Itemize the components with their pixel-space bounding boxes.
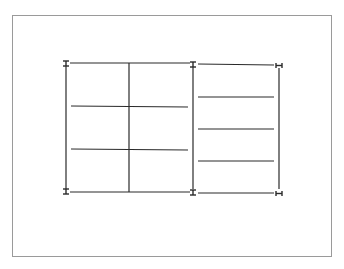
left-member-2: [71, 149, 188, 150]
h-beam-icon: [276, 63, 282, 68]
i-beam-icon: [63, 61, 69, 66]
structural-diagram: [0, 0, 344, 269]
left-member-1: [71, 106, 188, 107]
i-beam-icon: [190, 62, 196, 67]
h-beam-icon: [276, 191, 282, 196]
right-top-rail: [198, 64, 274, 65]
i-beam-icon: [63, 189, 69, 194]
i-beam-icon: [190, 190, 196, 195]
